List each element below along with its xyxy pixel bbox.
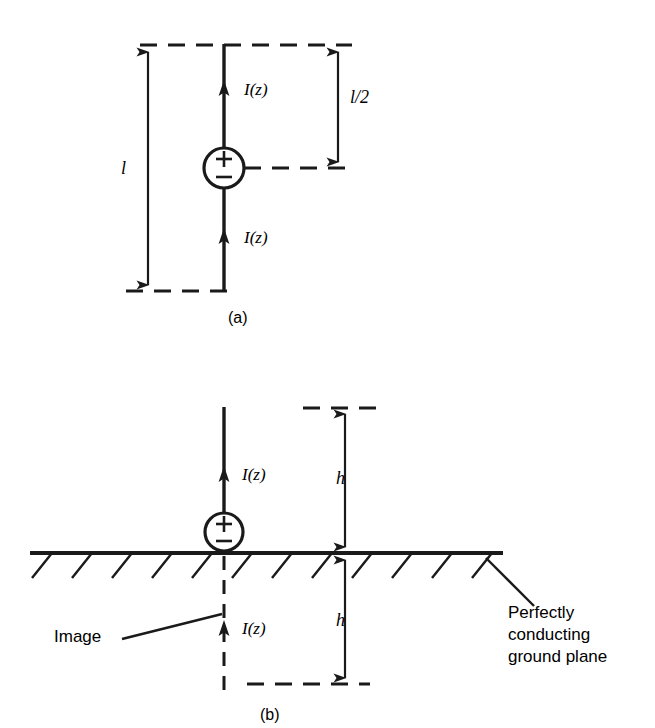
current-label-upper-b: I(z) [242,466,266,483]
image-leader-line [122,614,222,639]
panel-caption-a: (a) [228,310,248,326]
figure-container: I(z) I(z) l l/2 (a) I(z) I(z) h h Image … [0,0,655,728]
length-label-l-half: l/2 [350,88,369,106]
current-label-lower-a: I(z) [244,229,268,246]
current-label-image-b: I(z) [242,620,266,637]
current-label-upper-a: I(z) [244,81,268,98]
ground-plane-leader-line [486,558,534,606]
panel-a-drawing [126,44,352,292]
ground-plane-note: Perfectly conducting ground plane [508,602,607,668]
height-label-below: h [336,611,345,629]
panel-b-drawing [30,407,534,690]
ground-plane-hatching [32,553,492,578]
panel-caption-b: (b) [260,707,280,723]
height-label-above: h [336,469,345,487]
image-label: Image [54,628,101,645]
length-label-l: l [121,159,126,177]
